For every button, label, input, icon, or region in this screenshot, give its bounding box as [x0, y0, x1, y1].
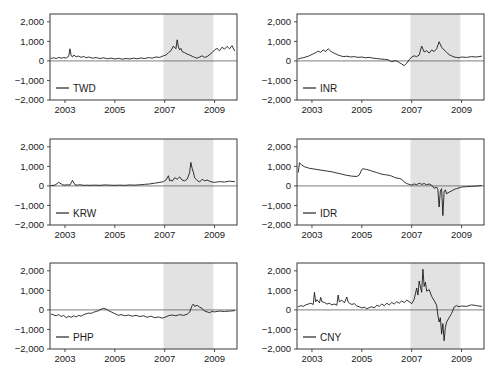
x-tick-label: 2007: [401, 353, 422, 364]
y-tick-label: 1,000: [20, 36, 44, 47]
y-tick-label: 2,000: [20, 16, 44, 27]
y-tick-label: −2,000: [262, 219, 291, 230]
legend-label: INR: [320, 83, 337, 94]
y-tick-label: −1,000: [262, 324, 291, 335]
y-tick-label: 0: [286, 304, 291, 315]
y-tick-label: −1,000: [262, 200, 291, 211]
legend-label: IDR: [320, 208, 337, 219]
x-tick-label: 2003: [54, 229, 75, 240]
y-tick-label: −2,000: [15, 343, 44, 354]
y-tick-label: 2,000: [20, 265, 44, 276]
x-tick-label: 2005: [351, 104, 372, 115]
x-tick-label: 2009: [204, 353, 225, 364]
panel-idr: 2,0001,0000−1,000−2,0002003200520072009I…: [247, 125, 493, 249]
shaded-region: [410, 139, 460, 225]
x-tick-label: 2003: [54, 104, 75, 115]
x-tick-label: 2009: [451, 229, 472, 240]
multi-panel-line-chart-figure: 2,0001,0000−1,000−2,0002003200520072009T…: [0, 0, 493, 373]
y-tick-label: 0: [286, 180, 291, 191]
panel-cny: 2,0001,0000−1,000−2,0002003200520072009C…: [247, 249, 493, 373]
legend-label: TWD: [73, 83, 96, 94]
y-tick-label: −2,000: [262, 94, 291, 105]
x-tick-label: 2009: [451, 353, 472, 364]
x-tick-label: 2003: [301, 104, 322, 115]
legend-label: PHP: [73, 332, 94, 343]
shaded-region: [163, 139, 213, 225]
x-tick-label: 2007: [154, 104, 175, 115]
y-tick-label: 2,000: [267, 141, 291, 152]
x-tick-label: 2009: [204, 229, 225, 240]
y-tick-label: 2,000: [267, 265, 291, 276]
shaded-region: [410, 263, 460, 349]
x-tick-label: 2003: [301, 353, 322, 364]
y-tick-label: 0: [39, 180, 44, 191]
y-tick-label: −1,000: [15, 200, 44, 211]
y-tick-label: 1,000: [20, 285, 44, 296]
x-tick-label: 2005: [351, 229, 372, 240]
y-tick-label: 0: [286, 55, 291, 66]
legend-label: KRW: [73, 208, 97, 219]
panel-inr: 2,0001,0000−1,000−2,0002003200520072009I…: [247, 0, 493, 124]
shaded-region: [163, 263, 213, 349]
y-tick-label: 0: [39, 55, 44, 66]
x-tick-label: 2005: [351, 353, 372, 364]
y-tick-label: 1,000: [267, 161, 291, 172]
x-tick-label: 2005: [104, 104, 125, 115]
y-tick-label: −2,000: [15, 219, 44, 230]
x-tick-label: 2007: [154, 353, 175, 364]
panel-krw: 2,0001,0000−1,000−2,0002003200520072009K…: [0, 125, 246, 249]
x-tick-label: 2003: [54, 353, 75, 364]
x-tick-label: 2005: [104, 353, 125, 364]
y-tick-label: 2,000: [267, 16, 291, 27]
x-tick-label: 2003: [301, 229, 322, 240]
x-tick-label: 2007: [401, 104, 422, 115]
y-tick-label: 2,000: [20, 141, 44, 152]
x-tick-label: 2005: [104, 229, 125, 240]
y-tick-label: −1,000: [15, 75, 44, 86]
y-tick-label: −1,000: [15, 324, 44, 335]
y-tick-label: 1,000: [267, 36, 291, 47]
x-tick-label: 2007: [401, 229, 422, 240]
panel-php: 2,0001,0000−1,000−2,0002003200520072009P…: [0, 249, 246, 373]
y-tick-label: 1,000: [267, 285, 291, 296]
x-tick-label: 2009: [204, 104, 225, 115]
shaded-region: [410, 14, 460, 100]
x-tick-label: 2009: [451, 104, 472, 115]
panel-twd: 2,0001,0000−1,000−2,0002003200520072009T…: [0, 0, 246, 124]
y-tick-label: −1,000: [262, 75, 291, 86]
y-tick-label: 0: [39, 304, 44, 315]
x-tick-label: 2007: [154, 229, 175, 240]
y-tick-label: −2,000: [15, 94, 44, 105]
y-tick-label: −2,000: [262, 343, 291, 354]
legend-label: CNY: [320, 332, 341, 343]
y-tick-label: 1,000: [20, 161, 44, 172]
